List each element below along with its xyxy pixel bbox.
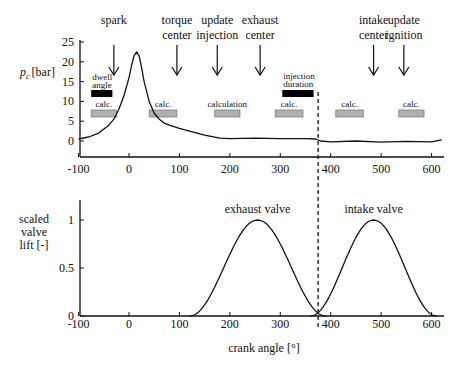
curve-label: exhaust valve <box>225 202 291 216</box>
calc-block-label: calculation <box>208 99 248 109</box>
y-tick-label: 25 <box>62 35 74 49</box>
x-tick-label: 500 <box>372 162 390 176</box>
cylinder-pressure-plot: 0510152025-1000100200300400500600pc[bar]… <box>19 13 444 176</box>
y-tick-label: 0.5 <box>59 261 74 275</box>
calc-block-label: calc. <box>95 99 112 109</box>
y-axis-label: scaled <box>19 212 49 226</box>
y-tick-label: 20 <box>62 55 74 69</box>
event-label: torque <box>162 13 193 27</box>
y-axis-label: lift [-] <box>20 238 49 252</box>
y-tick-label: 5 <box>68 114 74 128</box>
y-tick-label: 1 <box>68 213 74 227</box>
calc-block-label: calc. <box>281 99 298 109</box>
x-tick-label: 400 <box>322 317 340 331</box>
y-tick-label: 10 <box>62 94 74 108</box>
calc-block-label: calc. <box>403 99 420 109</box>
calc-block <box>275 110 303 117</box>
injection-duration-label: duration <box>283 79 313 89</box>
y-label-symbol: p <box>19 65 26 79</box>
event-label: exhaust <box>242 13 279 27</box>
x-axis-label: crank angle [°] <box>228 341 299 355</box>
x-tick-label: 600 <box>423 317 441 331</box>
x-tick-label: -100 <box>68 162 90 176</box>
event-label: spark <box>101 13 127 27</box>
event-label: intake <box>359 13 388 27</box>
calc-block-label: calc. <box>341 99 358 109</box>
event-label: center <box>162 28 191 42</box>
x-tick-label: 100 <box>170 162 188 176</box>
y-label-unit: [bar] <box>32 65 55 79</box>
dwell-angle-bar <box>91 90 112 97</box>
event-label: center <box>245 28 274 42</box>
injection-duration-bar <box>282 90 313 97</box>
engine-timing-chart: 0510152025-1000100200300400500600pc[bar]… <box>0 0 456 366</box>
y-axis-label: valve <box>21 225 47 239</box>
x-tick-label: 500 <box>372 317 390 331</box>
event-label: center <box>359 28 388 42</box>
x-tick-label: -100 <box>68 317 90 331</box>
curve-label: intake valve <box>344 202 402 216</box>
x-tick-label: 200 <box>221 162 239 176</box>
intake-valve-curve <box>311 220 437 316</box>
calc-block <box>336 110 364 117</box>
x-tick-label: 300 <box>271 317 289 331</box>
valve-lift-plot: 00.51-1000100200300400500600scaledvalvel… <box>19 92 444 355</box>
x-tick-label: 300 <box>271 162 289 176</box>
x-tick-label: 0 <box>126 317 132 331</box>
event-label: update <box>388 13 420 27</box>
x-tick-label: 400 <box>322 162 340 176</box>
event-label: update <box>201 13 233 27</box>
y-label-subscript: c <box>26 72 30 81</box>
x-tick-label: 100 <box>170 317 188 331</box>
calc-block <box>91 110 116 117</box>
x-tick-label: 0 <box>126 162 132 176</box>
y-tick-label: 0 <box>68 134 74 148</box>
dwell-angle-label: angle <box>92 80 112 90</box>
exhaust-valve-curve <box>190 220 326 316</box>
calc-block <box>215 110 240 117</box>
calc-block <box>399 110 424 117</box>
x-tick-label: 600 <box>423 162 441 176</box>
x-tick-label: 200 <box>221 317 239 331</box>
y-tick-label: 15 <box>62 75 74 89</box>
calc-block-label: calc. <box>155 99 172 109</box>
event-label: ignition <box>385 28 422 42</box>
event-label: injection <box>196 28 238 42</box>
y-axis-label: pc[bar] <box>19 65 55 81</box>
